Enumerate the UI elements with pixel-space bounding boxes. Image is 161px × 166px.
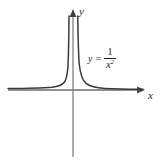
- y-axis-label: y: [79, 6, 84, 17]
- fraction-numerator: 1: [106, 47, 115, 58]
- function-graph-figure: y x y = 1 x2: [0, 0, 161, 166]
- denominator-exponent: 2: [111, 58, 114, 65]
- curve-equation-label: y = 1 x2: [88, 47, 116, 70]
- x-axis-arrowhead: [137, 87, 145, 94]
- x-axis-label: x: [148, 90, 153, 101]
- equation-lhs: y: [88, 54, 92, 64]
- equation-fraction: 1 x2: [104, 47, 116, 70]
- graph-canvas: [0, 0, 161, 166]
- y-axis-arrowhead: [70, 9, 77, 17]
- fraction-denominator: x2: [104, 59, 116, 70]
- equation-equals-sign: =: [95, 54, 101, 64]
- curve-left-branch: [8, 16, 69, 89]
